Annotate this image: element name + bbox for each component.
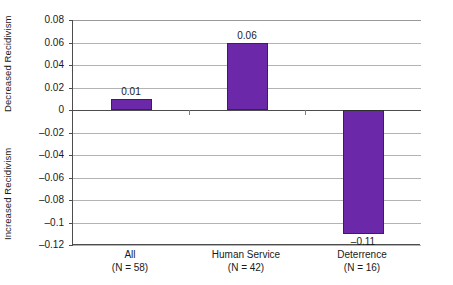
y-axis-tick-label: –0.1 (24, 218, 64, 228)
recidivism-bar-chart: Decreased Recidivism Increased Recidivis… (0, 0, 453, 285)
y-axis-tick-label: 0.08 (24, 15, 64, 25)
y-axis-tick (69, 110, 73, 111)
y-axis-tick (69, 223, 73, 224)
y-axis-tick-label: 0.02 (24, 83, 64, 93)
y-axis-tick (69, 178, 73, 179)
bar[interactable] (111, 99, 152, 110)
bar-value-label: 0.01 (101, 86, 161, 97)
y-axis-tick (69, 20, 73, 21)
bar[interactable] (343, 110, 384, 234)
y-axis-title-increased: Increased Recidivism (0, 120, 18, 240)
x-axis-category-label: Deterrence(N = 16) (302, 249, 422, 274)
y-axis-tick (69, 155, 73, 156)
y-axis-tick (69, 88, 73, 89)
category-separator-tick (305, 110, 306, 115)
y-axis-tick-label: –0.12 (24, 240, 64, 250)
y-axis-tick (69, 43, 73, 44)
category-name: Deterrence (337, 249, 386, 260)
y-axis-tick (69, 245, 73, 246)
y-axis-tick-label: 0.06 (24, 38, 64, 48)
category-sample-size: (N = 16) (302, 262, 422, 275)
y-axis-tick-label: –0.06 (24, 173, 64, 183)
y-axis-tick-labels: 0.080.060.040.020–0.02–0.04–0.06–0.08–0.… (26, 20, 68, 245)
y-axis-tick-label: 0 (24, 105, 64, 115)
y-axis-tick-label: –0.02 (24, 128, 64, 138)
category-separator-tick (189, 110, 190, 115)
category-sample-size: (N = 58) (70, 262, 190, 275)
bar[interactable] (227, 43, 268, 111)
gridline (73, 20, 421, 21)
category-name: All (124, 249, 135, 260)
bar-value-label: 0.06 (217, 30, 277, 41)
plot-area: 0.010.06–0.11 (72, 20, 420, 245)
x-axis-category-label: Human Service(N = 42) (186, 249, 306, 274)
category-sample-size: (N = 42) (186, 262, 306, 275)
y-axis-tick (69, 200, 73, 201)
y-axis-title-decreased-text: Decreased Recidivism (2, 15, 13, 112)
y-axis-tick (69, 133, 73, 134)
y-axis-tick-label: –0.04 (24, 150, 64, 160)
y-axis-tick (69, 65, 73, 66)
x-axis-category-label: All(N = 58) (70, 249, 190, 274)
bar-value-label: –0.11 (333, 236, 393, 247)
category-name: Human Service (212, 249, 280, 260)
y-axis-tick-label: –0.08 (24, 195, 64, 205)
y-axis-tick-label: 0.04 (24, 60, 64, 70)
y-axis-title-decreased: Decreased Recidivism (0, 20, 18, 112)
y-axis-title-increased-text: Increased Recidivism (2, 148, 13, 240)
